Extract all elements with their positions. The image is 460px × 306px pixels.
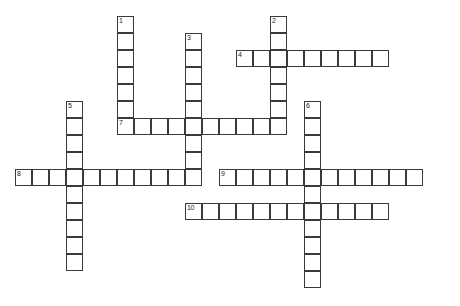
crossword-cell[interactable] xyxy=(236,203,253,220)
crossword-cell[interactable] xyxy=(287,169,304,186)
crossword-cell[interactable] xyxy=(151,118,168,135)
crossword-cell[interactable] xyxy=(270,33,287,50)
crossword-cell[interactable] xyxy=(32,169,49,186)
crossword-cell-start-9[interactable]: 9 xyxy=(219,169,236,186)
clue-number-8: 8 xyxy=(17,170,21,178)
crossword-cell[interactable] xyxy=(321,203,338,220)
clue-number-3: 3 xyxy=(187,34,191,42)
crossword-cell-start-5[interactable]: 5 xyxy=(66,101,83,118)
crossword-cell[interactable] xyxy=(338,203,355,220)
crossword-cell[interactable] xyxy=(372,203,389,220)
crossword-cell-start-4[interactable]: 4 xyxy=(236,50,253,67)
clue-number-6: 6 xyxy=(306,102,310,110)
crossword-cell[interactable] xyxy=(304,135,321,152)
crossword-cell[interactable] xyxy=(117,33,134,50)
crossword-cell[interactable] xyxy=(270,203,287,220)
crossword-cell[interactable] xyxy=(355,203,372,220)
crossword-cell[interactable] xyxy=(338,50,355,67)
crossword-cell-start-7[interactable]: 7 xyxy=(117,118,134,135)
crossword-cell[interactable] xyxy=(304,271,321,288)
crossword-cell[interactable] xyxy=(134,118,151,135)
crossword-cell[interactable] xyxy=(321,50,338,67)
crossword-cell-start-10[interactable]: 10 xyxy=(185,203,202,220)
crossword-cell[interactable] xyxy=(304,254,321,271)
crossword-grid: 12345678910 xyxy=(0,0,460,306)
crossword-cell[interactable] xyxy=(168,118,185,135)
crossword-cell[interactable] xyxy=(304,220,321,237)
crossword-cell-start-6[interactable]: 6 xyxy=(304,101,321,118)
crossword-cell[interactable] xyxy=(253,169,270,186)
crossword-cell[interactable] xyxy=(100,169,117,186)
crossword-cell[interactable] xyxy=(304,118,321,135)
crossword-cell[interactable] xyxy=(389,169,406,186)
crossword-cell-start-1[interactable]: 1 xyxy=(117,16,134,33)
crossword-cell[interactable] xyxy=(321,169,338,186)
crossword-cell[interactable] xyxy=(304,186,321,203)
crossword-cell[interactable] xyxy=(202,203,219,220)
clue-number-9: 9 xyxy=(221,170,225,178)
crossword-cell[interactable] xyxy=(253,203,270,220)
crossword-cell[interactable] xyxy=(219,203,236,220)
crossword-cell[interactable] xyxy=(66,152,83,169)
crossword-cell[interactable] xyxy=(202,118,219,135)
crossword-cell[interactable] xyxy=(355,169,372,186)
clue-number-5: 5 xyxy=(68,102,72,110)
crossword-cell[interactable] xyxy=(185,135,202,152)
crossword-cell[interactable] xyxy=(134,169,151,186)
crossword-cell[interactable] xyxy=(270,101,287,118)
crossword-cell[interactable] xyxy=(406,169,423,186)
crossword-cell[interactable] xyxy=(49,169,66,186)
crossword-cell[interactable] xyxy=(66,254,83,271)
crossword-cell[interactable] xyxy=(185,101,202,118)
crossword-cell[interactable] xyxy=(236,169,253,186)
crossword-cell[interactable] xyxy=(338,169,355,186)
crossword-cell[interactable] xyxy=(219,118,236,135)
crossword-cell[interactable] xyxy=(185,152,202,169)
clue-number-1: 1 xyxy=(119,17,123,25)
crossword-cell[interactable] xyxy=(355,50,372,67)
crossword-cell[interactable] xyxy=(168,169,185,186)
crossword-cell[interactable] xyxy=(66,220,83,237)
crossword-cell[interactable] xyxy=(304,203,321,220)
crossword-cell[interactable] xyxy=(372,50,389,67)
crossword-cell[interactable] xyxy=(66,135,83,152)
crossword-cell[interactable] xyxy=(304,169,321,186)
crossword-cell[interactable] xyxy=(304,152,321,169)
crossword-cell[interactable] xyxy=(236,118,253,135)
crossword-cell[interactable] xyxy=(185,50,202,67)
crossword-cell[interactable] xyxy=(270,67,287,84)
crossword-cell[interactable] xyxy=(66,118,83,135)
crossword-cell[interactable] xyxy=(117,101,134,118)
crossword-cell[interactable] xyxy=(185,118,202,135)
clue-number-4: 4 xyxy=(238,51,242,59)
crossword-cell[interactable] xyxy=(287,203,304,220)
crossword-cell-start-2[interactable]: 2 xyxy=(270,16,287,33)
crossword-cell[interactable] xyxy=(66,237,83,254)
crossword-cell[interactable] xyxy=(270,118,287,135)
crossword-cell-start-8[interactable]: 8 xyxy=(15,169,32,186)
crossword-cell[interactable] xyxy=(66,169,83,186)
crossword-cell[interactable] xyxy=(287,50,304,67)
crossword-cell[interactable] xyxy=(185,169,202,186)
crossword-cell[interactable] xyxy=(117,169,134,186)
crossword-cell[interactable] xyxy=(83,169,100,186)
crossword-cell[interactable] xyxy=(270,50,287,67)
crossword-cell[interactable] xyxy=(66,186,83,203)
crossword-cell[interactable] xyxy=(66,203,83,220)
crossword-cell[interactable] xyxy=(185,67,202,84)
crossword-cell[interactable] xyxy=(304,50,321,67)
crossword-cell[interactable] xyxy=(117,67,134,84)
crossword-cell[interactable] xyxy=(372,169,389,186)
crossword-cell[interactable] xyxy=(151,169,168,186)
crossword-cell[interactable] xyxy=(185,84,202,101)
crossword-cell[interactable] xyxy=(253,50,270,67)
crossword-cell[interactable] xyxy=(270,84,287,101)
clue-number-7: 7 xyxy=(119,119,123,127)
clue-number-10: 10 xyxy=(187,204,194,212)
crossword-cell[interactable] xyxy=(253,118,270,135)
crossword-cell[interactable] xyxy=(117,84,134,101)
crossword-cell[interactable] xyxy=(117,50,134,67)
crossword-cell[interactable] xyxy=(304,237,321,254)
crossword-cell-start-3[interactable]: 3 xyxy=(185,33,202,50)
crossword-cell[interactable] xyxy=(270,169,287,186)
